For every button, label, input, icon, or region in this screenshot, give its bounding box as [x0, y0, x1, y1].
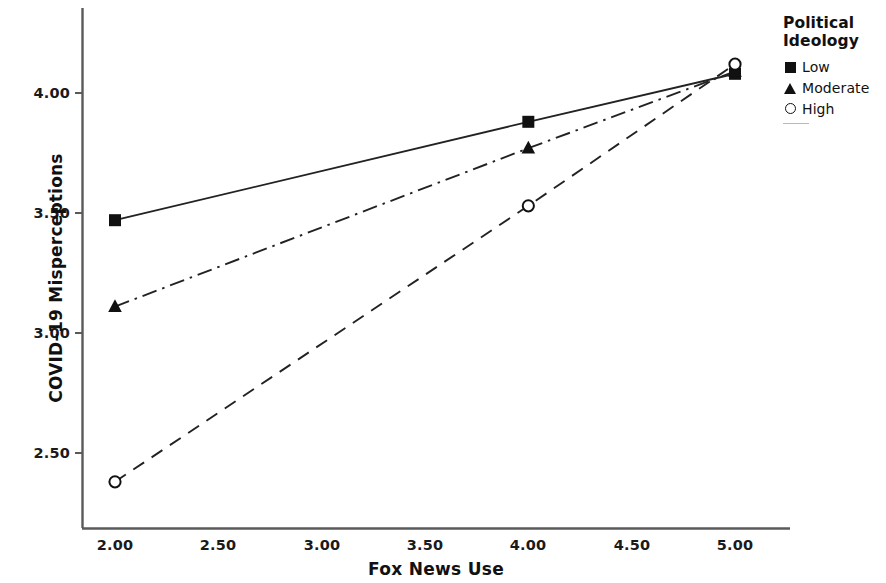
x-axis-title: Fox News Use	[82, 559, 790, 579]
legend-label-moderate: Moderate	[802, 80, 869, 96]
y-tick-label-1: 2.50	[14, 445, 70, 461]
open-circle-icon	[783, 100, 802, 119]
series-line-high	[115, 64, 735, 482]
data-point-low-0	[109, 214, 121, 226]
legend-label-low: Low	[802, 59, 830, 75]
y-tick-label-4: 4.00	[14, 85, 70, 101]
chart-figure: 4.00 3.50 3.00 2.50 2.00 2.50 3.00 3.50 …	[0, 0, 886, 583]
plot-canvas	[0, 0, 886, 583]
series-line-moderate	[115, 71, 735, 306]
x-tick-label-2: 2.50	[200, 537, 237, 553]
data-point-high-0	[109, 476, 120, 487]
legend-title: Political Ideology	[783, 14, 886, 51]
x-tick-label-6: 4.50	[614, 537, 651, 553]
series-line-low	[115, 74, 735, 220]
y-axis-title: COVID–19 Misperceptions	[46, 148, 66, 408]
filled-triangle-icon	[783, 79, 802, 98]
x-tick-label-5: 4.00	[510, 537, 547, 553]
legend-title-line-2: Ideology	[783, 32, 859, 50]
x-tick-label-1: 2.00	[97, 537, 134, 553]
legend-item-moderate[interactable]: Moderate	[783, 79, 886, 98]
legend-divider	[783, 123, 809, 124]
data-point-low-1	[522, 116, 534, 128]
legend-item-high[interactable]: High	[783, 100, 886, 119]
legend: Political Ideology Low Moderate High	[783, 14, 886, 124]
series-layer	[115, 64, 735, 482]
x-tick-label-3: 3.00	[304, 537, 341, 553]
legend-label-high: High	[802, 101, 835, 117]
legend-item-low[interactable]: Low	[783, 58, 886, 77]
y-axis-ticks	[75, 93, 82, 453]
x-tick-label-4: 3.50	[407, 537, 444, 553]
x-tick-label-7: 5.00	[717, 537, 754, 553]
filled-square-icon	[783, 58, 802, 77]
data-point-high-1	[523, 200, 534, 211]
data-point-high-2	[729, 59, 740, 70]
legend-title-line-1: Political	[783, 14, 854, 32]
